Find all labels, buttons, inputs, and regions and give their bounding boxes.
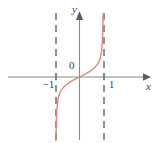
origin-label: 0 <box>69 60 75 71</box>
plot-canvas <box>0 0 161 143</box>
graph-figure: y x −1 1 0 <box>0 0 161 143</box>
y-axis-label: y <box>72 4 77 15</box>
x-tick-label-negative-one: −1 <box>43 80 54 91</box>
x-axis-label: x <box>146 81 151 92</box>
x-tick-label-positive-one: 1 <box>109 80 114 91</box>
